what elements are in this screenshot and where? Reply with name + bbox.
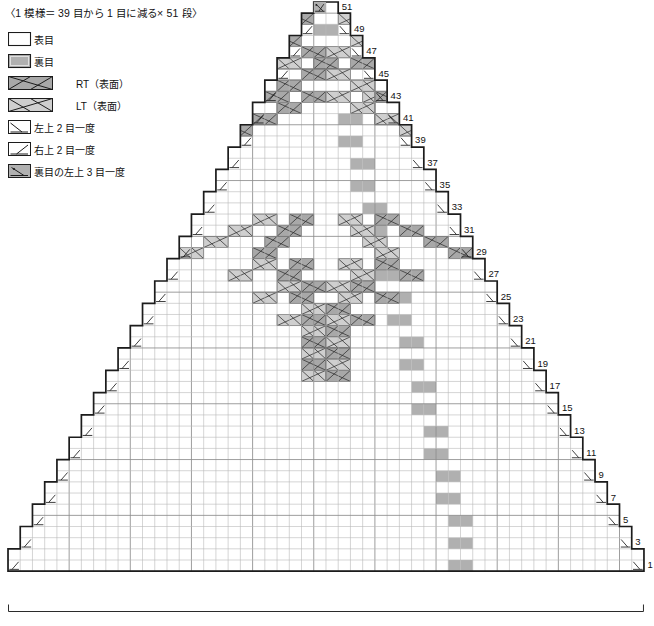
row-number-label: 37 (427, 157, 438, 168)
row-number-label: 15 (562, 402, 573, 413)
purl-left-over-dec3-icon (314, 2, 326, 13)
row-number-label: 3 (635, 536, 640, 547)
row-number-label: 41 (403, 112, 414, 123)
row-number-label: 21 (525, 335, 536, 346)
knitting-chart: 1357911131517192123252729313335373941434… (0, 0, 654, 626)
row-number-label: 17 (550, 380, 561, 391)
row-number-label: 1 (648, 559, 653, 570)
row-number-label: 47 (366, 45, 377, 56)
row-number-label: 7 (611, 492, 616, 503)
row-number-label: 9 (599, 469, 604, 480)
row-number-label: 29 (476, 246, 487, 257)
width-measure-bracket (9, 605, 644, 612)
row-number-label: 19 (537, 358, 548, 369)
row-number-label: 51 (342, 1, 353, 12)
row-number-label: 25 (501, 291, 512, 302)
row-number-label: 23 (513, 313, 524, 324)
row-number-label: 45 (378, 68, 389, 79)
row-number-label: 33 (452, 201, 463, 212)
row-number-label: 13 (574, 425, 585, 436)
row-number-label: 39 (415, 134, 426, 145)
row-number-label: 5 (623, 514, 628, 525)
row-number-label: 11 (586, 447, 596, 458)
row-number-label: 43 (391, 90, 402, 101)
row-number-label: 49 (354, 23, 365, 34)
row-number-label: 31 (464, 224, 475, 235)
row-number-label: 27 (489, 268, 500, 279)
row-number-label: 35 (440, 179, 451, 190)
